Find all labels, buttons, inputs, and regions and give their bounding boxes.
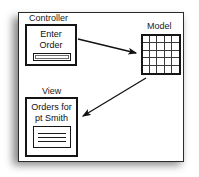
group-label-model: Model [147,21,172,31]
orders-list-panel [33,126,71,148]
enter-order-label-line2: Order [27,40,75,51]
model-grid-cell [165,66,172,73]
list-item [38,137,66,138]
list-item [38,141,66,142]
model-grid-cell [150,51,157,58]
model-grid-cell [143,66,150,73]
enter-order-label-line1: Enter [27,29,75,40]
model-grid-table[interactable] [141,34,181,75]
model-grid-cell [172,43,179,50]
model-grid-cell [143,43,150,50]
orders-view-label: Orders for pt Smith [27,102,76,124]
model-grid-cell [157,36,164,43]
model-grid-cell [157,43,164,50]
order-input-field[interactable] [33,53,71,61]
model-grid-cell [157,58,164,65]
model-grid-cell [172,36,179,43]
model-grid-cell [143,36,150,43]
model-grid-cell [165,43,172,50]
enter-order-label: Enter Order [27,29,75,51]
model-grid-cell [150,36,157,43]
model-grid-cell [143,58,150,65]
model-grid-cell [172,66,179,73]
orders-view-label-line2: pt Smith [27,113,76,124]
model-grid-cell [150,66,157,73]
group-label-view: View [42,86,61,96]
orders-view-label-line1: Orders for [27,102,76,113]
model-grid-cell [157,51,164,58]
list-item [38,133,66,134]
group-label-controller: Controller [29,13,68,23]
orders-view-widget[interactable]: Orders for pt Smith [25,97,78,157]
model-grid-cell [172,51,179,58]
model-grid-cell [143,51,150,58]
enter-order-widget[interactable]: Enter Order [25,24,77,66]
model-grid-cell [165,51,172,58]
model-grid-cell [157,66,164,73]
model-grid-cell [150,58,157,65]
model-grid-cell [165,36,172,43]
model-grid-cell [150,43,157,50]
model-grid-cell [165,58,172,65]
mvc-diagram: Controller Enter Order View Orders for p… [0,0,199,177]
model-grid-cell [172,58,179,65]
